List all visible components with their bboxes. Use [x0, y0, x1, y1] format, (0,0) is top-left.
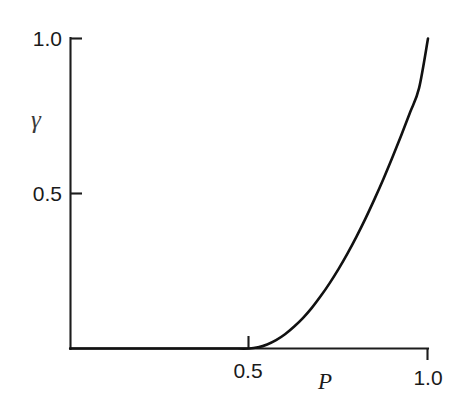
- y-tick-label-1.0: 1.0: [33, 27, 62, 50]
- x-axis-title: P: [317, 369, 332, 394]
- chart-background: [0, 0, 458, 399]
- x-tick-label-1.0: 1.0: [413, 366, 442, 389]
- x-tick-label-0.5: 0.5: [233, 359, 262, 382]
- y-axis-title: γ: [31, 106, 42, 133]
- chart-svg: 1.0 0.5 0.5 1.0 γ P: [0, 0, 458, 399]
- chart-figure: 1.0 0.5 0.5 1.0 γ P: [0, 0, 458, 399]
- y-tick-label-0.5: 0.5: [33, 182, 62, 205]
